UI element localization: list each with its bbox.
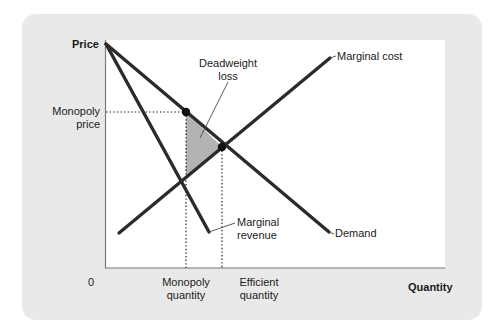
monopoly-quantity-label-line2: quantity [144,289,228,302]
efficient-outcome-point [218,143,226,151]
deadweight-loss-annotation-line2: loss [178,70,278,83]
deadweight-loss-leader-line [200,82,228,138]
x-axis-title: Quantity [408,281,453,294]
monopoly-price-label: Monopoly price [20,105,100,131]
deadweight-loss-region [186,112,222,178]
marginal-cost-label: Marginal cost [337,50,402,63]
marginal-revenue-label-line2: revenue [237,229,279,242]
monopoly-quantity-label-line1: Monopoly [144,276,228,289]
monopoly-price-label-line1: Monopoly [20,105,100,118]
origin-label: 0 [88,276,94,289]
monopoly-price-label-line2: price [20,118,100,131]
marginal-revenue-label: Marginal revenue [237,216,279,242]
monopoly-quantity-label: Monopoly quantity [144,276,228,302]
demand-label: Demand [335,227,377,240]
deadweight-loss-annotation: Deadweight loss [178,57,278,83]
efficient-quantity-label-line2: quantity [222,289,296,302]
efficient-quantity-label-line1: Efficient [222,276,296,289]
efficient-quantity-label: Efficient quantity [222,276,296,302]
figure-root: Price Quantity 0 Monopoly price Monopoly… [0,0,501,333]
monopoly-outcome-point [182,108,190,116]
y-axis-title: Price [72,38,99,51]
marginal-revenue-label-line1: Marginal [237,216,279,229]
deadweight-loss-annotation-line1: Deadweight [178,57,278,70]
